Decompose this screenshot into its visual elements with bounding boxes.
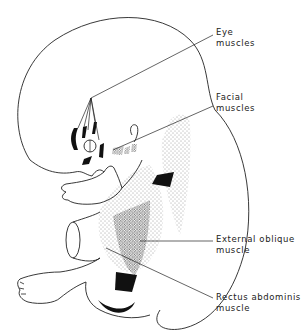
label-external-oblique: External oblique muscle bbox=[216, 234, 295, 256]
stump-connector bbox=[73, 212, 100, 261]
eye-muscle-fan bbox=[78, 98, 99, 140]
label-facial-muscles: Facial muscles bbox=[216, 92, 255, 114]
label-line: muscle bbox=[216, 303, 301, 314]
facial-muscle-stipple bbox=[112, 144, 137, 155]
rectus-lower-band bbox=[115, 272, 137, 292]
label-line: muscle bbox=[216, 245, 295, 256]
eye-muscle-top1 bbox=[82, 126, 87, 138]
label-line: muscles bbox=[216, 103, 255, 114]
label-line: muscles bbox=[216, 38, 255, 49]
label-rectus-abdominis: Rectus abdominis muscle bbox=[216, 292, 301, 314]
eye-muscle-left bbox=[71, 128, 78, 150]
label-line: External oblique bbox=[216, 234, 295, 245]
eye-muscle-right bbox=[99, 143, 104, 158]
embryo-diagram bbox=[0, 0, 305, 335]
leader-eye bbox=[91, 35, 213, 98]
label-line: Facial bbox=[216, 92, 255, 103]
eye-muscle-bottom bbox=[82, 156, 92, 165]
label-line: Eye bbox=[216, 27, 255, 38]
crescent-band bbox=[98, 300, 135, 313]
label-eye-muscles: Eye muscles bbox=[216, 27, 255, 49]
umbilical-stump bbox=[66, 222, 80, 258]
label-line: Rectus abdominis bbox=[216, 292, 301, 303]
toes bbox=[19, 282, 26, 294]
